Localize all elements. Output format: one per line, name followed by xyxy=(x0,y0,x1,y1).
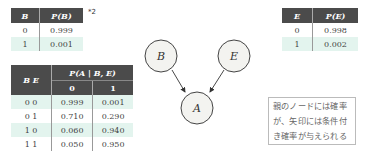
note-line: き確率が与えられる xyxy=(273,129,355,144)
node-e: E xyxy=(218,40,250,72)
svg-text:E: E xyxy=(229,50,238,63)
svg-text:A: A xyxy=(192,102,201,115)
node-b: B xyxy=(145,40,177,72)
edge-b-to-a xyxy=(172,70,185,92)
explanation-note: 親のノードには確率 が、矢印には条件付 き確率が与えられる xyxy=(268,97,356,145)
note-line: が、矢印には条件付 xyxy=(273,114,355,129)
node-a: A xyxy=(181,92,213,124)
svg-text:B: B xyxy=(156,50,165,63)
edge-e-to-a xyxy=(210,70,224,92)
note-line: 親のノードには確率 xyxy=(273,99,355,114)
